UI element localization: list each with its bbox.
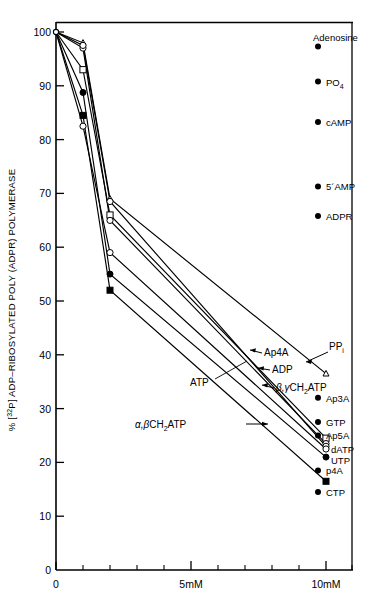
x-tick-label-0: 0	[53, 578, 59, 590]
y-axis-title: % [32P] ADP–RIBOSYLATED POLY (ADPR) POLY…	[6, 169, 17, 431]
right-marker-po4	[315, 79, 321, 85]
axes-frame	[56, 22, 353, 570]
right-label-utp: UTP	[331, 455, 350, 466]
right-marker-gtp	[315, 419, 321, 425]
y-tick-label-40: 40	[39, 349, 51, 361]
annotation-ab-ch2atp: α,βCH2ATP	[135, 419, 187, 432]
x-axis-ticks: 0 5mM 10mM	[53, 561, 352, 590]
y-tick-label-50: 50	[39, 295, 51, 307]
marker-mid-1mm	[80, 90, 86, 96]
leader-arrow-ap4a	[250, 348, 256, 352]
marker-bg-ch2atp-3mm	[107, 198, 113, 204]
right-label-adenosine: Adenosine	[313, 32, 358, 43]
marker-bg-ch2atp-1mm	[80, 42, 86, 48]
annotation-ap4a: Ap4A	[264, 347, 289, 358]
y-axis-title-superscript: 32	[6, 409, 13, 417]
right-label-ap3a: Ap3A	[326, 393, 350, 404]
marker-ab-ch2atp-3mm	[107, 287, 113, 293]
right-label-po4: PO4	[326, 77, 344, 90]
marker-mid-10mm	[323, 454, 329, 460]
marker-origin	[53, 29, 58, 34]
annotation-adp: ADP	[272, 364, 293, 375]
right-marker-ctp	[315, 489, 321, 495]
right-marker-5amp	[315, 184, 321, 190]
y-tick-label-30: 30	[39, 403, 51, 415]
chart-page: 100 90 80 70 60 50 40 30 20	[0, 0, 381, 606]
y-tick-label-80: 80	[39, 134, 51, 146]
right-marker-p4a	[315, 468, 321, 474]
y-tick-label-20: 20	[39, 456, 51, 468]
right-marker-camp	[315, 119, 321, 125]
y-tick-label-0: 0	[45, 564, 51, 576]
x-tick-label-10mM: 10mM	[311, 578, 340, 590]
marker-ab-ch2atp-10mm	[323, 478, 329, 484]
right-label-datp: dATP	[331, 444, 354, 455]
series-lines	[56, 32, 326, 481]
right-label-p4a: p4A	[326, 465, 344, 476]
marker-atp-3mm	[107, 250, 113, 256]
marker-atp-10mm	[323, 446, 329, 452]
right-marker-adenosine	[315, 44, 321, 50]
leader-arrow-ab-ch2atp	[262, 422, 268, 426]
y-tick-label-60: 60	[39, 241, 51, 253]
y-tick-label-90: 90	[39, 80, 51, 92]
annotation-atp: ATP	[190, 377, 209, 388]
y-axis-title-percent: %	[6, 422, 17, 431]
series-line-mid	[56, 32, 326, 457]
y-axis-ticks: 100 90 80 70 60 50 40 30 20	[33, 26, 64, 576]
marker-mid-3mm	[107, 271, 113, 277]
series-line-ab-ch2atp	[56, 32, 326, 481]
right-label-gtp: GTP	[326, 417, 346, 428]
leader-arrow-bg-ch2atp	[262, 383, 268, 387]
marker-ab-ch2atp-1mm	[80, 112, 86, 118]
right-label-5amp: 5´AMP	[326, 181, 355, 192]
series-markers	[53, 29, 329, 484]
x-tick-label-5mM: 5mM	[179, 578, 202, 590]
y-tick-label-10: 10	[39, 510, 51, 522]
marker-ap4a-1mm	[80, 67, 86, 73]
right-marker-ap5a	[315, 433, 321, 439]
right-label-camp: cAMP	[326, 117, 351, 128]
right-marker-adpr	[315, 213, 321, 219]
marker-adp-3mm	[107, 217, 113, 223]
right-marker-ap3a	[315, 395, 321, 401]
y-tick-label-100: 100	[33, 26, 51, 38]
poly-adpr-polymerase-inhibition-chart: 100 90 80 70 60 50 40 30 20	[0, 0, 381, 606]
annotation-ppi: PPi	[329, 341, 344, 354]
y-tick-label-70: 70	[39, 187, 51, 199]
right-side-markers: Adenosine PO4 cAMP 5´AMP ADPR Ap3A GTP A…	[313, 32, 358, 498]
leader-line-ppi	[306, 352, 328, 362]
right-label-adpr: ADPR	[326, 211, 353, 222]
right-label-ap5a: Ap5A	[326, 430, 350, 441]
y-axis-title-rest: ADP–RIBOSYLATED POLY (ADPR) POLYMERASE	[6, 169, 17, 399]
right-label-ctp: CTP	[326, 487, 345, 498]
svg-text:% [32P] ADP–RIBOSYLATED POLY (: % [32P] ADP–RIBOSYLATED POLY (ADPR) POLY…	[6, 169, 17, 431]
marker-atp-1mm	[80, 123, 86, 129]
